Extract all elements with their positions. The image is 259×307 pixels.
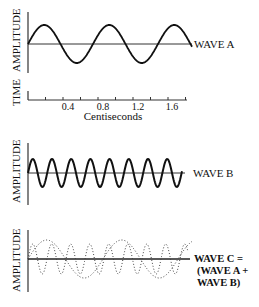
wave-c-ylabel: AMPLITUDE bbox=[10, 228, 22, 292]
wave-diagram: AMPLITUDE WAVE A TIME 0.4 0.8 1.2 1.6 Ce… bbox=[0, 0, 259, 307]
wave-c-label-line-1: WAVE C = bbox=[194, 253, 243, 264]
wave-b-label: WAVE B bbox=[193, 167, 233, 179]
wave-a-panel: AMPLITUDE WAVE A bbox=[10, 8, 234, 73]
time-axis-label: TIME bbox=[10, 79, 22, 106]
wave-b-panel: AMPLITUDE WAVE B bbox=[10, 139, 233, 205]
wave-c-label-line-2: (WAVE A + bbox=[197, 265, 248, 277]
wave-c-label-line-3: WAVE B) bbox=[197, 277, 241, 289]
wave-c-panel: AMPLITUDE WAVE C = (WAVE A + WAVE B) bbox=[10, 228, 248, 292]
wave-a-ylabel: AMPLITUDE bbox=[10, 8, 22, 72]
wave-b-ylabel: AMPLITUDE bbox=[10, 139, 22, 203]
time-axis-unit: Centiseconds bbox=[84, 110, 143, 122]
time-axis-panel: TIME 0.4 0.8 1.2 1.6 Centiseconds bbox=[10, 79, 187, 122]
time-tick-0-4: 0.4 bbox=[62, 101, 75, 112]
time-tick-1-6: 1.6 bbox=[166, 101, 179, 112]
wave-a-label: WAVE A bbox=[194, 38, 234, 50]
